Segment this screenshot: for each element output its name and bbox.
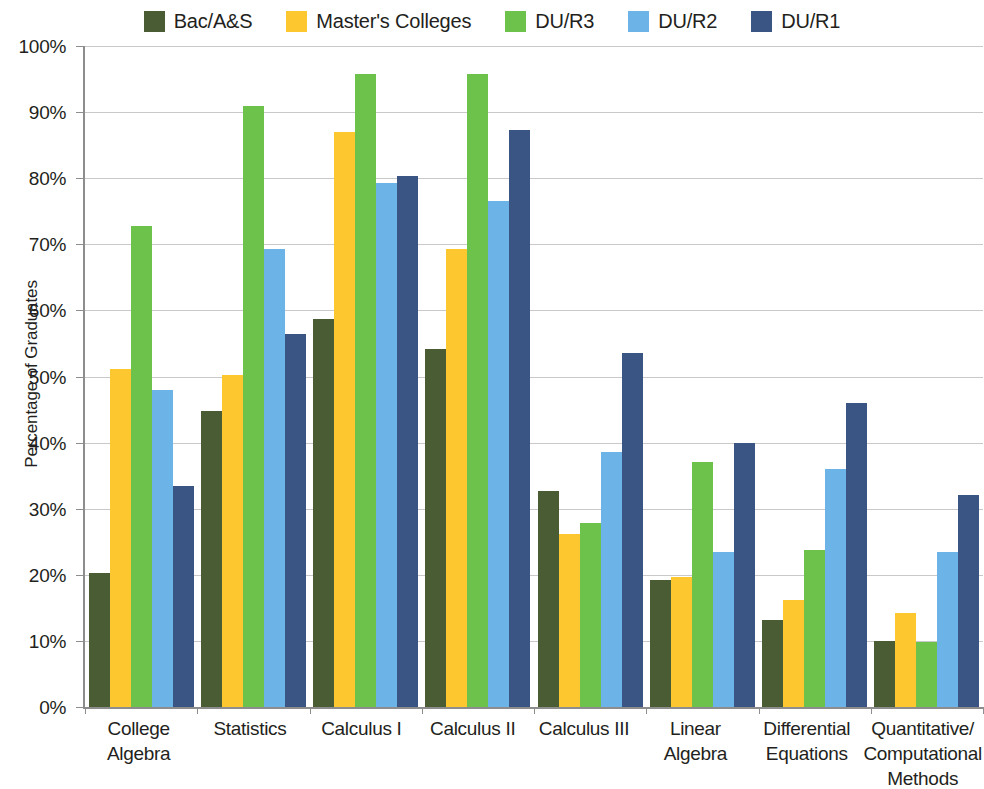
bar[interactable] — [488, 201, 509, 707]
bar[interactable] — [650, 580, 671, 707]
bar[interactable] — [89, 573, 110, 707]
bar[interactable] — [222, 375, 243, 707]
plot-area — [83, 46, 983, 709]
x-axis-tick-mark — [422, 707, 423, 714]
bar[interactable] — [110, 369, 131, 707]
bar-group — [534, 46, 646, 707]
bar[interactable] — [313, 319, 334, 707]
x-axis-category-label-line: Algebra — [84, 741, 193, 766]
x-axis-tick-mark — [534, 707, 535, 714]
x-axis-category-label-line: Computational — [863, 741, 982, 766]
y-axis-tick-labels: 100%90%80%70%60%50%40%30%20%10%0% — [0, 42, 76, 775]
bar[interactable] — [734, 443, 755, 707]
x-axis-category-label-line: Methods — [863, 766, 982, 789]
y-axis-tick-mark — [76, 46, 83, 47]
y-axis-tick-mark — [76, 112, 83, 113]
y-axis-tick-mark — [76, 443, 83, 444]
bar[interactable] — [937, 552, 958, 707]
bar[interactable] — [874, 641, 895, 707]
bar[interactable] — [601, 452, 622, 707]
legend-label: DU/R2 — [658, 11, 717, 31]
y-axis-tick-mark — [76, 707, 83, 708]
legend-item[interactable]: Master's Colleges — [286, 11, 471, 32]
x-axis-category-label-line: Statistics — [195, 716, 304, 741]
x-axis-category-label: Calculus I — [306, 716, 417, 789]
bar[interactable] — [958, 495, 979, 707]
legend-swatch-icon — [286, 11, 307, 32]
x-axis-category-labels: CollegeAlgebraStatisticsCalculus ICalcul… — [83, 716, 983, 789]
x-axis-tick-mark — [759, 707, 760, 714]
legend-label: Master's Colleges — [316, 11, 471, 31]
bar[interactable] — [559, 534, 580, 707]
x-axis-category-label-line: Quantitative/ — [863, 716, 982, 741]
legend-swatch-icon — [505, 11, 526, 32]
bar[interactable] — [783, 600, 804, 707]
y-axis-tick-label: 0% — [39, 698, 66, 717]
bar[interactable] — [425, 349, 446, 707]
legend-label: Bac/A&S — [174, 11, 253, 31]
x-axis-category-label: DifferentialEquations — [751, 716, 862, 789]
bar[interactable] — [467, 74, 488, 707]
x-axis-category-label-line: College — [84, 716, 193, 741]
bar[interactable] — [825, 469, 846, 707]
bar[interactable] — [334, 132, 355, 707]
y-axis-tick-label: 60% — [29, 301, 66, 320]
bar[interactable] — [355, 74, 376, 707]
legend-item[interactable]: DU/R1 — [751, 11, 840, 32]
legend-item[interactable]: DU/R2 — [628, 11, 717, 32]
bar[interactable] — [762, 620, 783, 707]
bar[interactable] — [201, 411, 222, 707]
y-axis-tick-label: 70% — [29, 235, 66, 254]
bar[interactable] — [916, 642, 937, 707]
bar[interactable] — [671, 577, 692, 707]
bar[interactable] — [152, 390, 173, 707]
bar[interactable] — [622, 353, 643, 707]
y-axis-tick-label: 10% — [29, 631, 66, 650]
bar-group — [422, 46, 534, 707]
bar[interactable] — [895, 613, 916, 707]
plot-wrapper: Percentage of Graduates 100%90%80%70%60%… — [0, 42, 984, 775]
bar[interactable] — [264, 249, 285, 707]
bar[interactable] — [804, 550, 825, 707]
bar[interactable] — [285, 334, 306, 707]
bar[interactable] — [173, 486, 194, 707]
x-axis-category-label-line: Calculus II — [418, 716, 527, 741]
x-axis-tick-mark — [310, 707, 311, 714]
bar[interactable] — [713, 552, 734, 707]
bar[interactable] — [376, 183, 397, 707]
y-axis-tick-label: 20% — [29, 565, 66, 584]
legend-swatch-icon — [628, 11, 649, 32]
y-axis-tick-label: 100% — [19, 37, 66, 56]
y-axis-tick-mark — [76, 641, 83, 642]
chart-legend: Bac/A&SMaster's CollegesDU/R3DU/R2DU/R1 — [0, 0, 984, 42]
x-axis-category-label-line: Equations — [752, 741, 861, 766]
bar[interactable] — [509, 130, 530, 707]
x-axis-category-label: CollegeAlgebra — [83, 716, 194, 789]
bar-group — [646, 46, 758, 707]
x-axis-category-label-line: Calculus III — [529, 716, 638, 741]
y-axis-tick-mark — [76, 178, 83, 179]
bar[interactable] — [243, 106, 264, 708]
y-axis-tick-label: 30% — [29, 499, 66, 518]
bar[interactable] — [446, 249, 467, 707]
bar[interactable] — [580, 523, 601, 707]
bar[interactable] — [397, 176, 418, 707]
y-axis-tick-label: 90% — [29, 103, 66, 122]
x-axis-category-label: Statistics — [194, 716, 305, 789]
bar[interactable] — [131, 226, 152, 707]
y-axis-tick-label: 80% — [29, 169, 66, 188]
x-axis-tick-mark — [646, 707, 647, 714]
bar[interactable] — [846, 403, 867, 707]
x-axis-category-label: Calculus III — [528, 716, 639, 789]
bar[interactable] — [692, 462, 713, 707]
bars-layer — [85, 46, 983, 707]
legend-label: DU/R1 — [781, 11, 840, 31]
y-axis-tick-mark — [76, 310, 83, 311]
legend-label: DU/R3 — [535, 11, 594, 31]
x-axis-category-label: Quantitative/ComputationalMethods — [862, 716, 983, 789]
legend-item[interactable]: DU/R3 — [505, 11, 594, 32]
bar[interactable] — [538, 491, 559, 707]
y-axis-tick-mark — [76, 377, 83, 378]
x-axis-category-label-line: Linear — [641, 716, 750, 741]
legend-item[interactable]: Bac/A&S — [144, 11, 253, 32]
